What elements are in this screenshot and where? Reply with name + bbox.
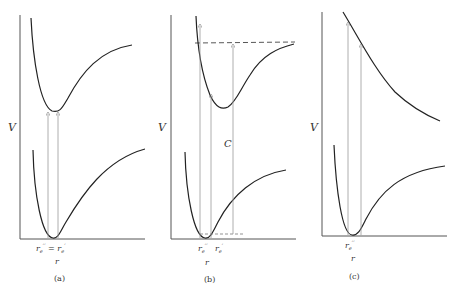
x-tick-label-excited: re′ [215, 242, 224, 254]
panel-c: V re′′ r (c) [310, 12, 447, 281]
potential-energy-diagram: V re′′ = re′ r (a) C V re′′ re′ r (b) [0, 0, 455, 290]
panel-a: V re′′ = re′ r (a) [8, 15, 145, 283]
dissociation-limit-line [195, 42, 295, 43]
y-axis-label: V [8, 121, 17, 134]
lower-potential-curve [33, 149, 145, 238]
x-axis-label: r [351, 254, 356, 263]
x-tick-label-ground: re′′ [345, 239, 355, 251]
upper-potential-curve [31, 18, 132, 111]
panel-caption: (a) [54, 274, 65, 283]
x-tick-label: re′′ = re′ [36, 242, 66, 254]
y-axis-label: V [158, 121, 167, 134]
panel-b: C V re′′ re′ r (b) [158, 15, 296, 284]
panel-caption: (c) [349, 272, 360, 281]
x-tick-label-ground: re′′ [198, 242, 208, 254]
lower-potential-curve [334, 145, 445, 235]
annotation-C: C [224, 138, 232, 149]
x-axis-label: r [55, 257, 60, 266]
panel-caption: (b) [204, 275, 215, 284]
upper-potential-curve [196, 16, 294, 108]
x-axis-label: r [205, 258, 210, 267]
repulsive-potential-curve [343, 12, 440, 121]
y-axis-label: V [310, 121, 319, 134]
